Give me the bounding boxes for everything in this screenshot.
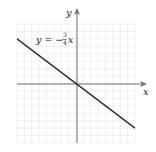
equation-label: y = − 3 4 x [35, 31, 74, 46]
x-axis-label: x [143, 86, 149, 97]
equation-numerator: 3 [63, 31, 67, 38]
equation-denominator: 4 [63, 39, 67, 46]
equation-lhs: y = − [35, 34, 63, 45]
y-axis-label: y [65, 7, 72, 18]
coordinate-plane: x y y = − 3 4 x [0, 0, 156, 152]
equation-variable: x [68, 34, 74, 45]
